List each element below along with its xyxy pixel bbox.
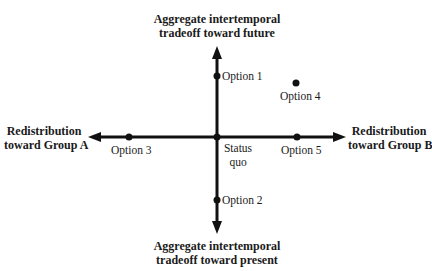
left-arrow-icon [88,132,101,142]
status-quo-label-line2: quo [223,155,253,169]
up-arrow-icon [212,46,222,59]
option-1-label: Option 1 [222,69,263,83]
option-4-point [293,80,300,87]
option-4-label: Option 4 [280,89,321,103]
right-axis-label: Redistribution toward Group B [348,124,430,152]
option-3-point [126,134,133,141]
left-axis-label-line1: Redistribution [4,124,84,138]
left-axis-label: Redistribution toward Group A [4,124,84,152]
right-axis-label-line2: toward Group B [348,138,430,152]
right-arrow-icon [333,132,346,142]
status-quo-label-line1: Status [223,141,253,155]
option-5-point [294,134,301,141]
right-axis-label-line1: Redistribution [348,124,430,138]
status-quo-label: Status quo [223,141,253,169]
option-3-label: Option 3 [111,143,152,157]
option-5-label: Option 5 [281,143,322,157]
bottom-axis-label-line2: tradeoff toward present [137,253,297,267]
top-axis-label-line2: tradeoff toward future [137,26,297,40]
left-axis-label-line2: toward Group A [4,138,84,152]
option-2-point [214,197,221,204]
option-2-label: Option 2 [222,193,263,207]
down-arrow-icon [212,221,222,234]
status-quo-point [214,134,221,141]
top-axis-label-line1: Aggregate intertemporal [137,12,297,26]
bottom-axis-label: Aggregate intertemporal tradeoff toward … [137,239,297,267]
bottom-axis-label-line1: Aggregate intertemporal [137,239,297,253]
top-axis-label: Aggregate intertemporal tradeoff toward … [137,12,297,40]
option-1-point [214,73,221,80]
